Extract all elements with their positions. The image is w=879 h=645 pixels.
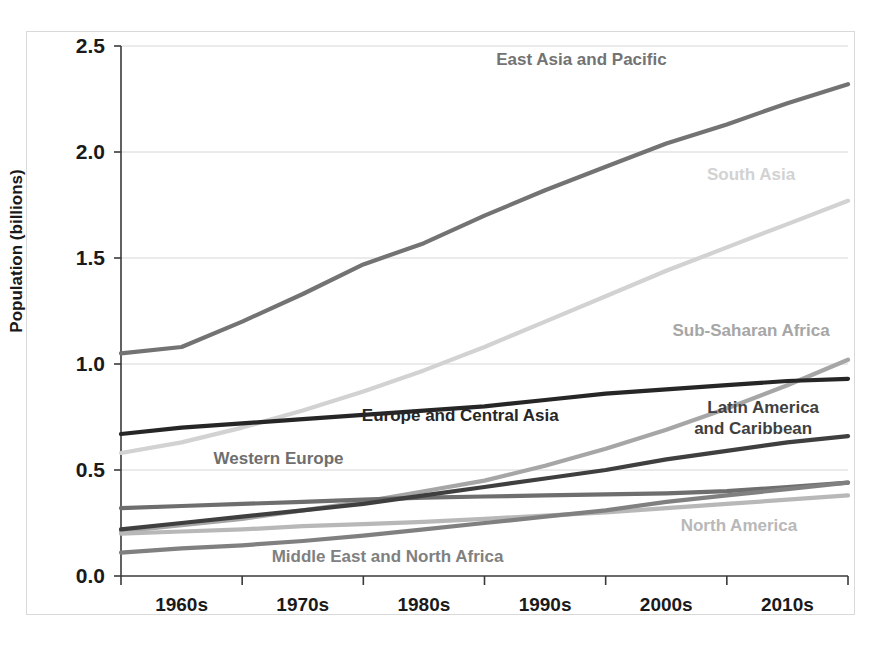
series-label-east-asia-and-pacific: East Asia and Pacific bbox=[496, 50, 666, 69]
series-label-latin-america-and-caribbean-line2: and Caribbean bbox=[694, 419, 812, 438]
population-line-chart: 0.00.51.01.52.02.51960s1970s1980s1990s20… bbox=[0, 0, 879, 645]
y-axis-tick-label: 0.0 bbox=[76, 564, 105, 587]
series-line-east-asia-and-pacific bbox=[121, 84, 848, 353]
x-axis-tick-label-2000s: 2000s bbox=[640, 594, 693, 615]
x-axis-tick-label-1990s: 1990s bbox=[519, 594, 572, 615]
series-label-western-europe: Western Europe bbox=[213, 449, 343, 468]
y-axis-tick-label: 1.0 bbox=[76, 352, 105, 375]
y-axis-title: Population (billions) bbox=[7, 169, 26, 332]
x-axis-tick-label-2010s: 2010s bbox=[761, 594, 814, 615]
series-label-latin-america-and-caribbean: Latin America bbox=[707, 398, 819, 417]
y-axis-tick-label: 2.0 bbox=[76, 140, 105, 163]
series-label-middle-east-and-north-africa: Middle East and North Africa bbox=[272, 547, 504, 566]
x-axis-tick-label-1970s: 1970s bbox=[276, 594, 329, 615]
y-axis-tick-label: 1.5 bbox=[76, 246, 106, 269]
series-label-sub-saharan-africa: Sub-Saharan Africa bbox=[672, 321, 830, 340]
chart-container: 0.00.51.01.52.02.51960s1970s1980s1990s20… bbox=[0, 0, 879, 645]
series-label-north-america: North America bbox=[681, 516, 798, 535]
y-axis-tick-label: 2.5 bbox=[76, 34, 106, 57]
x-axis-tick-label-1980s: 1980s bbox=[397, 594, 450, 615]
x-axis-tick-label-1960s: 1960s bbox=[155, 594, 208, 615]
series-label-south-asia: South Asia bbox=[707, 165, 796, 184]
series-label-europe-and-central-asia: Europe and Central Asia bbox=[362, 406, 559, 425]
y-axis-tick-label: 0.5 bbox=[76, 458, 106, 481]
